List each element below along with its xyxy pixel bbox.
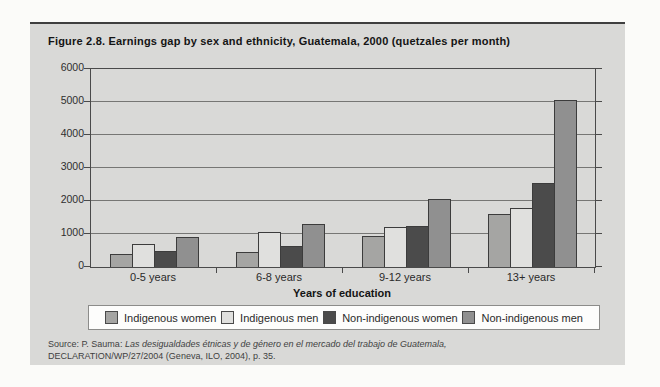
figure-title: Figure 2.8. Earnings gap by sex and ethn… <box>48 35 615 47</box>
bar-indigenous-men <box>258 232 281 267</box>
bar-non-indigenous-women <box>532 183 555 267</box>
legend-label: Non-indigenous men <box>481 312 583 324</box>
plot-area <box>90 68 596 268</box>
y-axis-tick <box>595 134 602 135</box>
source-note: Source: P. Sauma: Las desigualdades étni… <box>48 338 613 362</box>
legend-item: Non-indigenous women <box>323 311 458 324</box>
bar-indigenous-women <box>362 236 385 267</box>
chart-legend: Indigenous womenIndigenous menNon-indige… <box>88 305 600 330</box>
x-axis-label: 0-5 years <box>90 271 216 283</box>
legend-item: Indigenous women <box>105 311 216 324</box>
y-axis-tick <box>84 134 91 135</box>
legend-label: Indigenous women <box>124 312 216 324</box>
x-axis-labels: 0-5 years6-8 years9-12 years13+ years <box>90 271 594 283</box>
bar-indigenous-men <box>510 208 533 267</box>
bar-group <box>91 69 217 267</box>
legend-label: Indigenous men <box>240 312 318 324</box>
bar-group <box>217 69 343 267</box>
source-line2: DECLARATION/WP/27/2004 (Geneva, ILO, 200… <box>48 351 275 361</box>
y-axis-label: 2000 <box>38 193 84 206</box>
x-axis-tick <box>594 267 595 273</box>
bar-indigenous-men <box>132 244 155 267</box>
y-axis-label: 4000 <box>38 127 84 140</box>
y-axis-label: 0 <box>38 259 84 272</box>
legend-swatch <box>105 311 118 324</box>
x-axis-label: 13+ years <box>468 271 594 283</box>
bar-non-indigenous-men <box>176 237 199 267</box>
y-axis-tick <box>595 266 602 267</box>
bar-group <box>343 69 469 267</box>
figure-panel: Figure 2.8. Earnings gap by sex and ethn… <box>30 22 625 365</box>
legend-item: Non-indigenous men <box>462 311 583 324</box>
y-axis-tick <box>84 266 91 267</box>
legend-swatch <box>221 311 234 324</box>
source-reference-title: Las desigualdades étnicas y de género en… <box>125 339 447 349</box>
y-axis-tick <box>595 200 602 201</box>
bar-indigenous-men <box>384 227 407 267</box>
y-axis-tick <box>84 233 91 234</box>
y-axis-tick <box>595 167 602 168</box>
y-axis-label: 6000 <box>38 61 84 74</box>
bar-non-indigenous-men <box>428 199 451 267</box>
legend-label: Non-indigenous women <box>342 312 458 324</box>
bar-non-indigenous-women <box>280 246 303 267</box>
bar-non-indigenous-women <box>406 226 429 267</box>
y-axis-tick <box>84 167 91 168</box>
y-axis-label: 5000 <box>38 94 84 107</box>
y-axis-tick <box>595 101 602 102</box>
y-axis-tick <box>84 101 91 102</box>
y-axis-tick <box>595 68 602 69</box>
legend-swatch <box>323 311 336 324</box>
bar-non-indigenous-men <box>302 224 325 267</box>
bar-non-indigenous-women <box>154 251 177 267</box>
bar-group <box>469 69 595 267</box>
x-axis-title: Years of education <box>90 287 594 299</box>
bar-non-indigenous-men <box>554 100 577 267</box>
bar-indigenous-women <box>488 214 511 267</box>
legend-swatch <box>462 311 475 324</box>
bar-groups <box>91 69 595 267</box>
bar-indigenous-women <box>110 254 133 267</box>
y-axis-label: 1000 <box>38 226 84 239</box>
x-axis-label: 9-12 years <box>342 271 468 283</box>
y-axis-tick <box>84 68 91 69</box>
x-axis-label: 6-8 years <box>216 271 342 283</box>
y-axis-tick <box>84 200 91 201</box>
source-prefix: Source: P. Sauma: <box>48 339 125 349</box>
bar-indigenous-women <box>236 252 259 267</box>
legend-item: Indigenous men <box>221 311 318 324</box>
y-axis-tick <box>595 233 602 234</box>
y-axis-label: 3000 <box>38 160 84 173</box>
